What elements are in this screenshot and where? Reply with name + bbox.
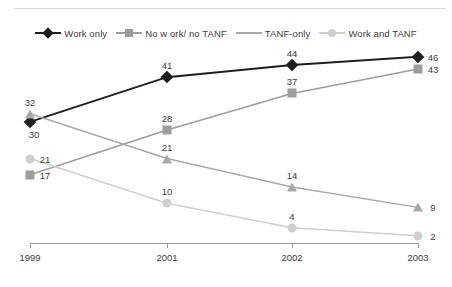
data-point bbox=[287, 183, 297, 192]
top-divider-rule bbox=[14, 8, 446, 9]
data-label: 43 bbox=[428, 63, 439, 74]
data-point bbox=[26, 170, 35, 179]
data-point bbox=[24, 116, 37, 129]
legend-circle-icon bbox=[319, 27, 345, 39]
x-axis-label: 2002 bbox=[281, 252, 302, 263]
series-line bbox=[30, 69, 418, 175]
data-label: 21 bbox=[40, 153, 51, 164]
x-axis-tick bbox=[30, 243, 31, 248]
data-point bbox=[161, 71, 174, 84]
legend-entry[interactable]: TANF-only bbox=[236, 27, 311, 39]
data-label: 37 bbox=[287, 76, 298, 87]
x-axis-line bbox=[30, 243, 419, 244]
data-label: 32 bbox=[25, 96, 36, 107]
legend-label: Work only bbox=[64, 28, 107, 39]
legend-entry[interactable]: Work only bbox=[35, 27, 107, 39]
data-point bbox=[414, 64, 423, 73]
data-point bbox=[413, 203, 423, 212]
legend-diamond-icon bbox=[35, 27, 61, 39]
data-label: 30 bbox=[29, 128, 40, 139]
data-point bbox=[162, 154, 172, 163]
legend-entry[interactable]: Work and TANF bbox=[319, 27, 416, 39]
data-label: 14 bbox=[287, 170, 298, 181]
data-label: 46 bbox=[428, 51, 439, 62]
data-label: 4 bbox=[289, 210, 294, 221]
data-point bbox=[412, 50, 425, 63]
legend-triangle-icon bbox=[236, 27, 262, 39]
legend-entry[interactable]: No w ork/ no TANF bbox=[116, 27, 227, 39]
data-label: 21 bbox=[162, 141, 173, 152]
data-point bbox=[414, 231, 423, 240]
data-label: 9 bbox=[430, 202, 435, 213]
x-axis-label: 2003 bbox=[407, 252, 428, 263]
legend-label: Work and TANF bbox=[348, 28, 416, 39]
data-label: 41 bbox=[162, 60, 173, 71]
data-point bbox=[163, 199, 172, 208]
data-point bbox=[25, 109, 35, 118]
data-label: 28 bbox=[162, 113, 173, 124]
legend-square-icon bbox=[116, 27, 142, 39]
data-point bbox=[288, 89, 297, 98]
data-point bbox=[286, 59, 299, 72]
data-label: 44 bbox=[287, 47, 298, 58]
chart-legend: Work onlyNo w ork/ no TANFTANF-onlyWork … bbox=[0, 24, 452, 42]
x-axis-tick bbox=[292, 243, 293, 248]
data-point bbox=[288, 223, 297, 232]
series-lines bbox=[0, 0, 452, 287]
legend-label: No w ork/ no TANF bbox=[145, 28, 227, 39]
chart-container: Work onlyNo w ork/ no TANFTANF-onlyWork … bbox=[0, 0, 452, 287]
data-point bbox=[163, 126, 172, 135]
data-label: 17 bbox=[40, 169, 51, 180]
data-label: 2 bbox=[430, 230, 435, 241]
series-line bbox=[30, 114, 418, 208]
plot-area: 1999200120022003304144461728374332211492… bbox=[0, 0, 452, 287]
series-line bbox=[30, 159, 418, 236]
x-axis-label: 2001 bbox=[156, 252, 177, 263]
data-label: 10 bbox=[162, 186, 173, 197]
legend-label: TANF-only bbox=[265, 28, 311, 39]
x-axis-label: 1999 bbox=[19, 252, 40, 263]
x-axis-tick bbox=[418, 243, 419, 248]
data-point bbox=[26, 154, 35, 163]
series-line bbox=[30, 57, 418, 122]
x-axis-tick bbox=[167, 243, 168, 248]
